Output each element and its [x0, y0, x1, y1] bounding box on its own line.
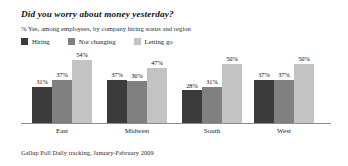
bar-value-label: 54% [76, 52, 88, 58]
bar-value-label: 50% [226, 56, 238, 62]
legend-item-hiring[interactable]: Hiring [21, 38, 50, 45]
bar-value-label: 37% [278, 72, 290, 78]
legend-swatch-hiring [21, 38, 28, 45]
bar-group-midwest: 37%36%47% [105, 52, 169, 124]
bar-rect[interactable] [72, 60, 92, 124]
x-axis-label-midwest: Midwest [105, 127, 169, 135]
bar-value-label: 37% [56, 72, 68, 78]
chart-subtitle: % Yes, among employees, by company hirin… [21, 25, 191, 32]
bar-midwest-not-changing[interactable]: 36% [127, 52, 147, 124]
chart-figure: Did you worry about money yesterday? % Y… [0, 0, 348, 166]
x-axis-label-east: East [30, 127, 94, 135]
bar-group-west: 37%37%50% [252, 52, 316, 124]
plot-area: 31%37%54%37%36%47%28%31%50%37%37%50% [21, 52, 329, 124]
bar-value-label: 36% [131, 73, 143, 79]
bar-east-not-changing[interactable]: 37% [52, 52, 72, 124]
bar-rect[interactable] [107, 80, 127, 124]
bar-group-east: 31%37%54% [30, 52, 94, 124]
bar-midwest-hiring[interactable]: 37% [107, 52, 127, 124]
chart-legend: Hiring Not changing Letting go [21, 38, 191, 45]
legend-item-not-changing[interactable]: Not changing [68, 38, 116, 45]
chart-source-note: Gallup Poll Daily tracking, January-Febr… [21, 149, 154, 156]
bar-value-label: 31% [36, 79, 48, 85]
bar-south-letting-go[interactable]: 50% [222, 52, 242, 124]
legend-label-hiring: Hiring [32, 38, 50, 45]
legend-label-letting-go: Letting go [145, 38, 173, 45]
bar-west-hiring[interactable]: 37% [254, 52, 274, 124]
bar-rect[interactable] [274, 80, 294, 124]
x-axis-label-south: South [180, 127, 244, 135]
legend-label-not-changing: Not changing [79, 38, 116, 45]
bar-west-letting-go[interactable]: 50% [294, 52, 314, 124]
bar-value-label: 31% [206, 79, 218, 85]
bar-rect[interactable] [294, 64, 314, 124]
bar-rect[interactable] [254, 80, 274, 124]
bar-east-hiring[interactable]: 31% [32, 52, 52, 124]
chart-title: Did you worry about money yesterday? [21, 9, 174, 19]
bar-rect[interactable] [147, 68, 167, 124]
bar-rect[interactable] [52, 80, 72, 124]
legend-item-letting-go[interactable]: Letting go [134, 38, 173, 45]
bar-south-hiring[interactable]: 28% [182, 52, 202, 124]
legend-swatch-letting-go [134, 38, 141, 45]
bar-midwest-letting-go[interactable]: 47% [147, 52, 167, 124]
x-axis-label-west: West [252, 127, 316, 135]
bar-rect[interactable] [222, 64, 242, 124]
bar-south-not-changing[interactable]: 31% [202, 52, 222, 124]
axis-baseline [21, 123, 331, 124]
bar-rect[interactable] [202, 87, 222, 124]
bar-west-not-changing[interactable]: 37% [274, 52, 294, 124]
bar-rect[interactable] [32, 87, 52, 124]
bar-value-label: 47% [151, 60, 163, 66]
bar-east-letting-go[interactable]: 54% [72, 52, 92, 124]
bar-value-label: 50% [298, 56, 310, 62]
legend-swatch-not-changing [68, 38, 75, 45]
bar-value-label: 37% [111, 72, 123, 78]
bar-group-south: 28%31%50% [180, 52, 244, 124]
bar-rect[interactable] [182, 90, 202, 124]
bar-value-label: 28% [186, 83, 198, 89]
bar-value-label: 37% [258, 72, 270, 78]
bar-rect[interactable] [127, 81, 147, 124]
